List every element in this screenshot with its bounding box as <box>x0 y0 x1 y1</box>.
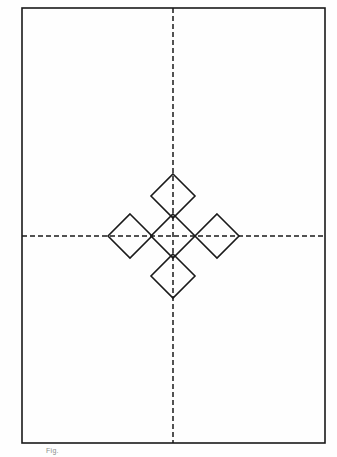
geometric-figure <box>0 0 337 457</box>
figure-background <box>0 0 337 457</box>
figure-canvas: Fig. <box>0 0 337 457</box>
